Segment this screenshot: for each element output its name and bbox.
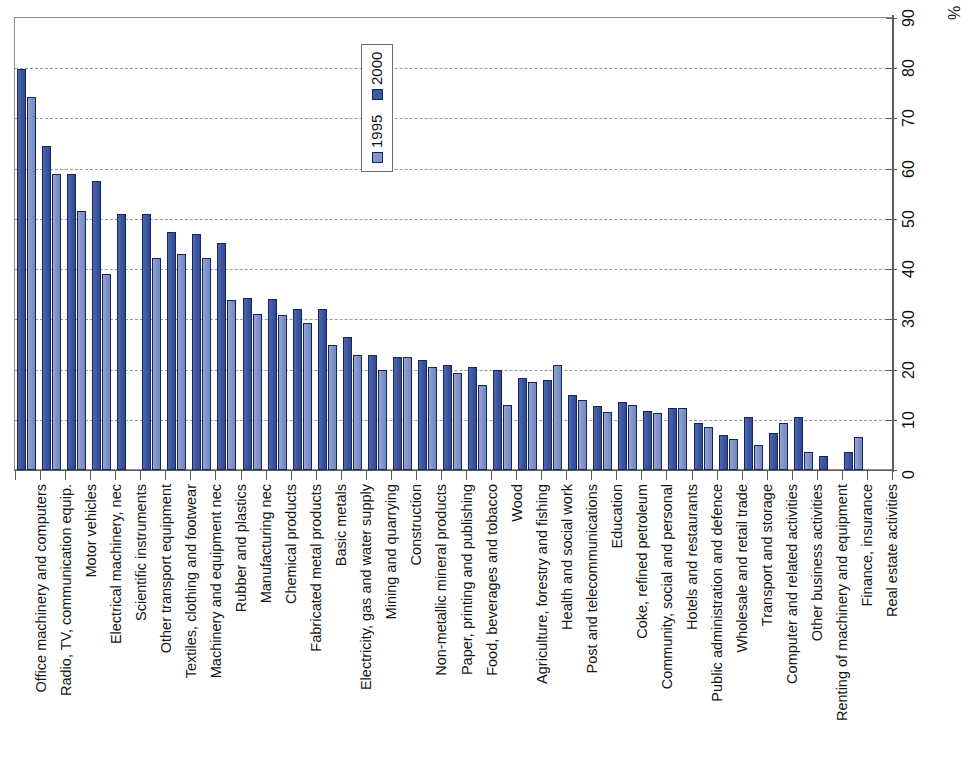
legend-label-2000: 2000 <box>368 52 385 85</box>
category-label: Renting of machinery and equipment <box>834 247 850 484</box>
category-label: Textiles, clothing and footwear <box>183 290 199 484</box>
legend-swatch-2000 <box>372 89 383 100</box>
category-label: Health and social work <box>559 338 575 484</box>
category-label: Non-metallic mineral products <box>433 292 449 484</box>
category-label: Basic metals <box>333 402 349 484</box>
y-axis-unit-label: % <box>946 6 964 20</box>
category-label: Education <box>609 420 625 485</box>
category-label: Agriculture, forestry and fishing <box>534 284 550 484</box>
category-label: Construction <box>408 403 424 484</box>
category-label: Motor vehicles <box>83 391 99 484</box>
category-label: Machinery and equipment nec <box>208 290 224 484</box>
legend-swatch-1995 <box>372 152 383 163</box>
chart-legend: 2000 1995 <box>361 44 393 172</box>
category-label: Paper, printing and publishing <box>459 293 475 484</box>
category-label: Office machinery and computers <box>33 276 49 484</box>
category-label: Mining and quarrying <box>383 349 399 484</box>
legend-item-1995: 1995 <box>362 107 394 169</box>
category-label: Post and telecommunications <box>584 295 600 484</box>
category-label: Electricity, gas and water supply <box>358 278 374 484</box>
category-label: Chemical products <box>283 364 299 484</box>
category-label: Public administration and defence <box>709 266 725 484</box>
category-label: Fabricated metal products <box>308 316 324 484</box>
legend-item-2000: 2000 <box>362 45 394 107</box>
chart-figure: 0102030405060708090 % Office machinery a… <box>0 0 973 769</box>
category-label: Scientific instruments <box>133 347 149 484</box>
x-tick <box>15 471 16 480</box>
category-label: Coke, refined petroleum <box>634 329 650 484</box>
category-label: Transport and storage <box>759 342 775 484</box>
category-label: Food, beverages and tobacco <box>484 292 500 484</box>
legend-label-1995: 1995 <box>368 115 385 148</box>
category-label: Electrical machinery, nec <box>108 324 124 484</box>
category-label: Wood <box>509 446 525 484</box>
category-label: Radio, TV, communication equip. <box>58 272 74 484</box>
bar-2000 <box>17 69 26 470</box>
category-label: Wholesale and retail trade <box>734 316 750 484</box>
category-label: Finance, insurance <box>859 361 875 484</box>
category-label: Computer and related activities <box>784 284 800 484</box>
category-label: Hotels and restaurants <box>684 338 700 484</box>
category-label: Real estate activities <box>884 351 900 484</box>
category-label: Other transport equipment <box>158 315 174 484</box>
category-label: Other business activities <box>809 327 825 484</box>
y-tick-label-90: 90 <box>900 0 918 27</box>
category-label: Rubber and plastics <box>233 356 249 484</box>
category-label: Community, social and personal <box>659 279 675 484</box>
category-label: Manufacturing nec <box>258 365 274 484</box>
